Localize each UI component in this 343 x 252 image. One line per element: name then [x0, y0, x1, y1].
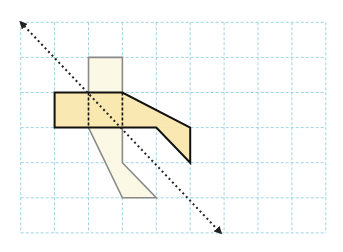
- reflection-diagram: [0, 0, 343, 252]
